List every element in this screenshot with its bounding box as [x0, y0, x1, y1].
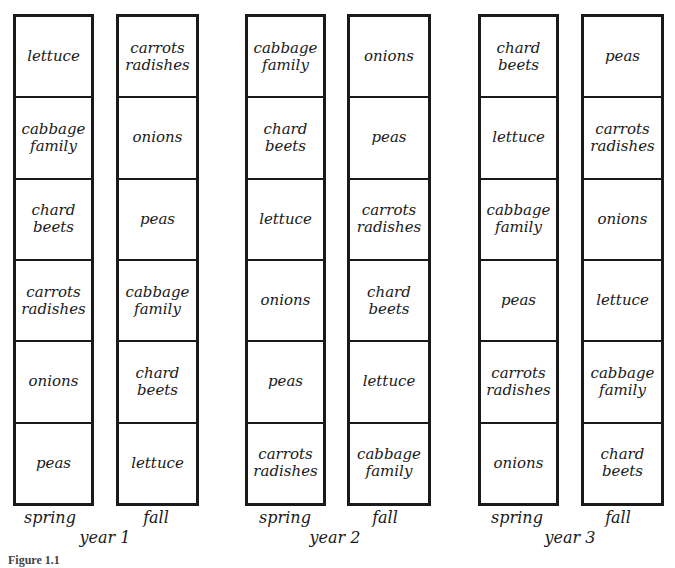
- year2-spring-column: cabbage family chard beets lettuce onion…: [245, 14, 326, 506]
- bed-cell: chard beets: [584, 422, 661, 503]
- bed-cell: lettuce: [16, 17, 91, 96]
- bed-cell: peas: [119, 178, 196, 259]
- season-label: fall: [345, 508, 425, 527]
- bed-cell: onions: [584, 178, 661, 259]
- season-label: spring: [245, 508, 325, 527]
- bed-cell: peas: [584, 17, 661, 96]
- bed-cell: chard beets: [16, 178, 91, 259]
- year-label: year 2: [285, 528, 385, 547]
- bed-cell: lettuce: [248, 178, 323, 259]
- bed-cell: carrots radishes: [584, 96, 661, 177]
- season-label: spring: [477, 508, 557, 527]
- bed-cell: chard beets: [119, 340, 196, 421]
- bed-cell: cabbage family: [119, 259, 196, 340]
- bed-cell: lettuce: [481, 96, 556, 177]
- bed-cell: carrots radishes: [16, 259, 91, 340]
- year1-fall-column: carrots radishes onions peas cabbage fam…: [116, 14, 199, 506]
- bed-cell: carrots radishes: [248, 422, 323, 503]
- bed-cell: onions: [248, 259, 323, 340]
- season-label: spring: [10, 508, 90, 527]
- bed-cell: peas: [248, 340, 323, 421]
- bed-cell: lettuce: [584, 259, 661, 340]
- bed-cell: peas: [350, 96, 428, 177]
- bed-cell: cabbage family: [350, 422, 428, 503]
- bed-cell: onions: [350, 17, 428, 96]
- year3-fall-column: peas carrots radishes onions lettuce cab…: [581, 14, 664, 506]
- bed-cell: lettuce: [350, 340, 428, 421]
- bed-cell: peas: [16, 422, 91, 503]
- bed-cell: chard beets: [248, 96, 323, 177]
- bed-cell: cabbage family: [584, 340, 661, 421]
- bed-cell: carrots radishes: [119, 17, 196, 96]
- bed-cell: onions: [16, 340, 91, 421]
- bed-cell: carrots radishes: [481, 340, 556, 421]
- year2-fall-column: onions peas carrots radishes chard beets…: [347, 14, 431, 506]
- year3-spring-column: chard beets lettuce cabbage family peas …: [478, 14, 559, 506]
- season-label: fall: [578, 508, 658, 527]
- bed-cell: carrots radishes: [350, 178, 428, 259]
- bed-cell: lettuce: [119, 422, 196, 503]
- figure-caption: Figure 1.1: [8, 553, 60, 568]
- season-label: fall: [116, 508, 196, 527]
- year1-spring-column: lettuce cabbage family chard beets carro…: [13, 14, 94, 506]
- bed-cell: cabbage family: [248, 17, 323, 96]
- bed-cell: cabbage family: [16, 96, 91, 177]
- year-label: year 3: [520, 528, 620, 547]
- bed-cell: peas: [481, 259, 556, 340]
- bed-cell: onions: [119, 96, 196, 177]
- bed-cell: chard beets: [350, 259, 428, 340]
- year-label: year 1: [55, 528, 155, 547]
- bed-cell: cabbage family: [481, 178, 556, 259]
- bed-cell: chard beets: [481, 17, 556, 96]
- bed-cell: onions: [481, 422, 556, 503]
